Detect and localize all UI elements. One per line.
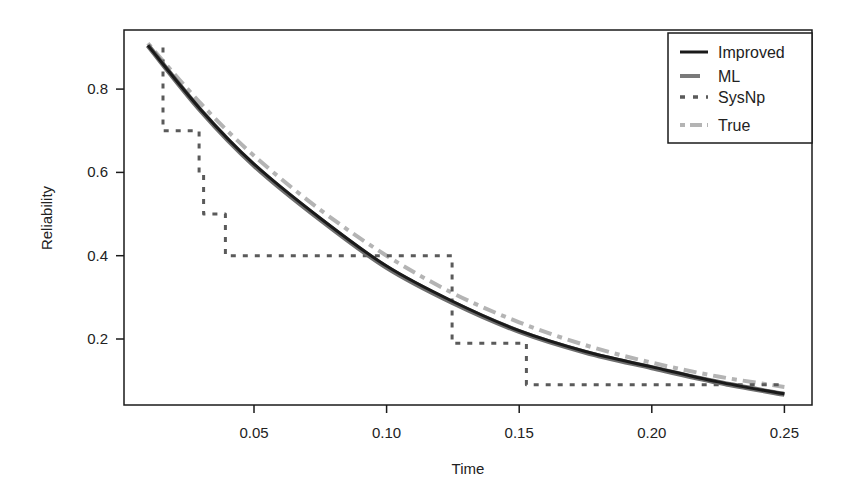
legend-label-ml: ML: [718, 68, 740, 85]
legend: Improved ML SysNp True: [668, 33, 812, 143]
legend-label-true: True: [718, 117, 750, 134]
legend-label-improved: Improved: [718, 44, 785, 61]
x-axis: 0.050.100.150.200.25: [239, 405, 799, 441]
x-axis-title: Time: [452, 460, 485, 477]
x-tick-label: 0.10: [372, 424, 401, 441]
y-axis: 0.20.40.60.8: [87, 80, 124, 347]
y-axis-title: Reliability: [38, 185, 55, 250]
x-tick-label: 0.20: [637, 424, 666, 441]
y-tick-label: 0.4: [87, 247, 108, 264]
x-tick-label: 0.25: [770, 424, 799, 441]
y-tick-label: 0.2: [87, 330, 108, 347]
legend-label-sysnp: SysNp: [718, 89, 765, 106]
y-tick-label: 0.8: [87, 80, 108, 97]
reliability-chart: 0.050.100.150.200.25 0.20.40.60.8 Time R…: [0, 0, 848, 499]
x-tick-label: 0.05: [239, 424, 268, 441]
y-tick-label: 0.6: [87, 163, 108, 180]
x-tick-label: 0.15: [505, 424, 534, 441]
